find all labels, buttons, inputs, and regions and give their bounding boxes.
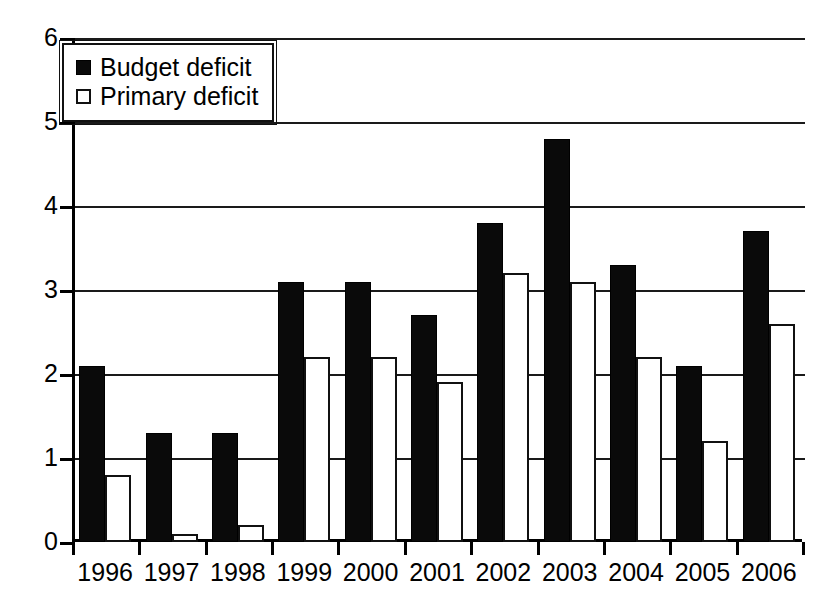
filled-square-icon — [76, 60, 91, 75]
bar-primary-deficit — [172, 534, 198, 542]
bar-primary-deficit — [503, 273, 529, 542]
bar-group — [537, 38, 603, 542]
x-axis-tick-label: 2004 — [603, 558, 669, 586]
bar-budget-deficit — [278, 282, 304, 542]
x-tick-mark — [603, 542, 606, 555]
bar-primary-deficit — [636, 357, 662, 542]
x-axis-tick-label: 2006 — [736, 558, 802, 586]
chart-legend: Budget deficit Primary deficit — [62, 43, 274, 122]
x-axis-tick-label: 2001 — [404, 558, 470, 586]
bar-primary-deficit — [702, 441, 728, 542]
bar-primary-deficit — [371, 357, 397, 542]
x-tick-mark — [802, 542, 805, 555]
x-tick-mark — [736, 542, 739, 555]
bar-budget-deficit — [743, 231, 769, 542]
y-axis-tick-label: 4 — [14, 193, 58, 218]
x-axis-tick-label: 2003 — [537, 558, 603, 586]
y-axis-tick-label: 2 — [14, 361, 58, 386]
bar-budget-deficit — [146, 433, 172, 542]
x-tick-mark — [669, 542, 672, 555]
bar-chart: 0123456 19961997199819992000200120022003… — [0, 0, 821, 608]
legend-item-budget-deficit: Budget deficit — [76, 53, 258, 82]
bar-group — [404, 38, 470, 542]
x-tick-mark — [337, 542, 340, 555]
bar-budget-deficit — [79, 366, 105, 542]
legend-label-primary-deficit: Primary deficit — [100, 83, 258, 110]
x-axis: 1996199719981999200020012002200320042005… — [72, 542, 802, 608]
bar-group — [271, 38, 337, 542]
x-axis-tick-label: 2005 — [669, 558, 735, 586]
x-tick-mark — [205, 542, 208, 555]
bar-group — [603, 38, 669, 542]
x-tick-mark — [537, 542, 540, 555]
bar-primary-deficit — [570, 282, 596, 542]
bar-group — [669, 38, 735, 542]
y-axis-tick-label: 5 — [14, 109, 58, 134]
bar-group — [470, 38, 536, 542]
bar-budget-deficit — [610, 265, 636, 542]
bar-budget-deficit — [411, 315, 437, 542]
x-axis-tick-label: 1997 — [138, 558, 204, 586]
y-axis-tick-label: 6 — [14, 25, 58, 50]
bar-group — [736, 38, 802, 542]
x-tick-mark — [72, 542, 75, 555]
bar-primary-deficit — [304, 357, 330, 542]
x-tick-mark — [271, 542, 274, 555]
x-tick-mark — [138, 542, 141, 555]
x-axis-tick-label: 1999 — [271, 558, 337, 586]
bar-primary-deficit — [238, 525, 264, 542]
x-tick-mark — [470, 542, 473, 555]
legend-label-budget-deficit: Budget deficit — [100, 54, 252, 81]
bar-budget-deficit — [544, 139, 570, 542]
bar-budget-deficit — [477, 223, 503, 542]
bar-primary-deficit — [105, 475, 131, 542]
bar-budget-deficit — [676, 366, 702, 542]
x-axis-tick-label: 1996 — [72, 558, 138, 586]
x-axis-tick-label: 1998 — [205, 558, 271, 586]
y-axis-tick-label: 1 — [14, 445, 58, 470]
bar-primary-deficit — [437, 382, 463, 542]
x-axis-tick-label: 2002 — [470, 558, 536, 586]
bar-group — [337, 38, 403, 542]
y-axis-tick-label: 0 — [14, 529, 58, 554]
bar-budget-deficit — [212, 433, 238, 542]
y-axis-tick-label: 3 — [14, 277, 58, 302]
bar-budget-deficit — [345, 282, 371, 542]
x-tick-mark — [404, 542, 407, 555]
legend-item-primary-deficit: Primary deficit — [76, 82, 258, 111]
x-axis-tick-label: 2000 — [337, 558, 403, 586]
bar-primary-deficit — [769, 324, 795, 542]
open-square-icon — [76, 89, 91, 104]
